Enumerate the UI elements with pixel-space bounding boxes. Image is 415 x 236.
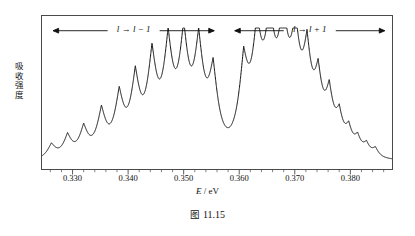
x-axis-tick-labels: 0.3300.3400.3500.3600.3700.380: [41, 173, 393, 185]
x-tick-label: 0.340: [119, 173, 138, 183]
x-tick-label: 0.380: [341, 173, 360, 183]
branch-l-post: l + 1: [309, 24, 327, 34]
x-tick-label: 0.360: [230, 173, 249, 183]
branch-arrow-glyph: →: [298, 24, 307, 34]
x-axis-unit: eV: [209, 186, 220, 196]
y-axis-label-text: 吸收强度: [11, 62, 27, 100]
branch-l-pre: l: [293, 24, 296, 34]
branch-arrow-glyph: →: [122, 24, 131, 34]
figure-container: 吸收强度 l → l − 1 l → l + 1 0.3300.3400.350…: [0, 0, 415, 236]
x-tick-label: 0.330: [63, 173, 82, 183]
branch-label-right: l → l + 1: [293, 24, 327, 34]
y-axis-label: 吸收强度: [11, 62, 27, 100]
caption-label: 图: [190, 209, 200, 220]
x-tick-label: 0.370: [285, 173, 304, 183]
branch-l-pre: l: [117, 24, 120, 34]
x-axis-sep: /: [201, 186, 208, 196]
plot-area: l → l − 1 l → l + 1: [41, 15, 393, 170]
branch-label-left: l → l − 1: [117, 24, 151, 34]
spectrum-trace: [42, 16, 392, 169]
caption-number: 11.15: [203, 209, 225, 220]
figure-caption: 图 11.15: [0, 207, 415, 221]
x-axis-title: E / eV: [0, 186, 415, 196]
x-tick-label: 0.350: [174, 173, 193, 183]
branch-l-post: l − 1: [133, 24, 151, 34]
